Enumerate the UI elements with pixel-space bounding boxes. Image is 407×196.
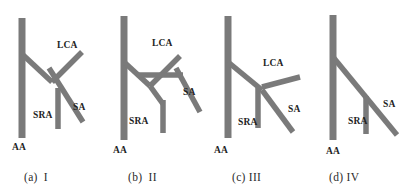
label-sra-c: SRA (238, 118, 258, 128)
label-aa-a: AA (12, 143, 26, 153)
label-sa-d: SA (383, 100, 396, 110)
caption-b-prefix: (b) (128, 171, 142, 183)
caption-c-roman: III (249, 171, 261, 183)
label-sa-a: SA (73, 103, 86, 113)
caption-panel-a: (a) I (24, 172, 48, 184)
label-lca-b: LCA (152, 39, 173, 49)
label-aa-d: AA (326, 147, 340, 157)
panel-d-vessels (0, 0, 407, 196)
label-lca-c: LCA (263, 59, 284, 69)
label-aa-b: AA (113, 146, 127, 156)
label-sra-b: SRA (129, 117, 149, 127)
label-lca-a: LCA (57, 41, 78, 51)
caption-b-roman: II (149, 171, 157, 183)
caption-panel-b: (b) II (128, 172, 157, 184)
caption-panel-d: (d) IV (329, 172, 359, 184)
caption-d-prefix: (d) (329, 171, 343, 183)
caption-a-roman: I (44, 171, 48, 183)
caption-a-prefix: (a) (24, 171, 38, 183)
label-aa-c: AA (214, 146, 228, 156)
caption-c-prefix: (c) (232, 171, 246, 183)
label-sra-a: SRA (33, 111, 53, 121)
caption-panel-c: (c) III (232, 172, 261, 184)
label-sa-b: SA (183, 88, 196, 98)
caption-d-roman: IV (347, 171, 360, 183)
label-sa-c: SA (288, 105, 301, 115)
figure-anatomical-variants: LCA SRA SA AA LCA SRA SA AA LCA SRA SA A… (0, 0, 407, 196)
label-sra-d: SRA (348, 117, 368, 127)
